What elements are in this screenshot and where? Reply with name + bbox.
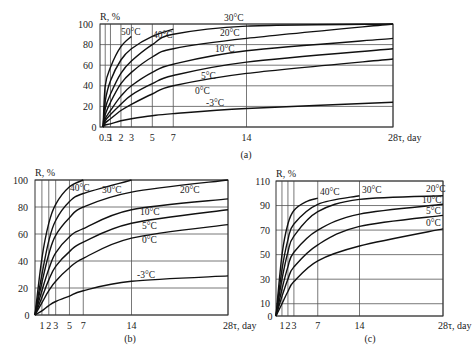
curve-label: 10°C bbox=[215, 44, 235, 54]
y-tick-label: 70 bbox=[260, 225, 270, 236]
curve-label: 0°C bbox=[142, 235, 157, 245]
x-tick-label: 5 bbox=[150, 132, 155, 143]
y-tick-label-zero: 0 bbox=[92, 122, 97, 133]
x-tick-label: 14 bbox=[242, 132, 252, 143]
curve-label: -3°C bbox=[137, 270, 155, 280]
curve-label: 5°C bbox=[142, 221, 157, 231]
curve-10c bbox=[103, 38, 393, 127]
y-tick-label: 30 bbox=[260, 274, 270, 285]
x-tick-label: 2 bbox=[285, 320, 290, 331]
curve-label: 0°C bbox=[426, 218, 441, 228]
y-tick-label: 40 bbox=[18, 256, 28, 267]
grid bbox=[276, 181, 443, 316]
y-tick-label-zero: 0 bbox=[25, 310, 30, 321]
y-tick-label-zero: 0 bbox=[268, 311, 273, 322]
panel-caption: (c) bbox=[364, 333, 375, 345]
curve-label: 30°C bbox=[102, 185, 122, 195]
curve-label: 20°C bbox=[426, 184, 446, 194]
x-tick-label: 2 bbox=[46, 320, 51, 331]
curve-label: 30°C bbox=[224, 13, 244, 23]
x-tick-label: 7 bbox=[81, 320, 86, 331]
curve-label: 10°C bbox=[140, 207, 160, 217]
grid bbox=[35, 180, 228, 315]
x-tick-label: 1 bbox=[39, 320, 44, 331]
panel-caption: (b) bbox=[124, 333, 136, 345]
x-tick-label: 28τ, day bbox=[223, 320, 256, 331]
curve-label: 30°C bbox=[362, 185, 382, 195]
y-tick-label: 10 bbox=[260, 298, 270, 309]
y-tick-label: 80 bbox=[83, 39, 93, 50]
y-tick-label: 80 bbox=[18, 202, 28, 213]
x-tick-label: 14 bbox=[127, 320, 137, 331]
y-tick-label: 20 bbox=[83, 101, 93, 112]
x-tick-label: 3 bbox=[291, 320, 296, 331]
y-tick-label: 100 bbox=[13, 175, 28, 186]
curve-label: 20°C bbox=[220, 28, 240, 38]
x-tick-label: 3 bbox=[129, 132, 134, 143]
y-axis-label: R, % bbox=[276, 168, 296, 179]
curve-label: 40°C bbox=[320, 187, 340, 197]
x-tick-label: 2 bbox=[118, 132, 123, 143]
y-tick-label: 60 bbox=[83, 60, 93, 71]
y-axis-label: R, % bbox=[35, 167, 55, 178]
x-tick-label: 5 bbox=[67, 320, 72, 331]
x-tick-label: 28τ, day bbox=[438, 320, 471, 331]
x-tick-label: 3 bbox=[53, 320, 58, 331]
grid bbox=[100, 24, 393, 127]
curve-label: 10°C bbox=[422, 195, 442, 205]
figure-three-panel-charts: 2040608010000.5123571428τ, dayR, %(a)50°… bbox=[0, 0, 473, 358]
chart-c: 1030507090110012371428τ, dayR, %(c)40°C3… bbox=[255, 168, 471, 345]
x-tick-label: 7 bbox=[315, 320, 320, 331]
x-tick-label: 14 bbox=[355, 320, 365, 331]
curve-label: -3°C bbox=[206, 98, 224, 108]
y-tick-label: 100 bbox=[78, 19, 93, 30]
curve-label: 50°C bbox=[121, 27, 141, 37]
y-tick-label: 110 bbox=[255, 176, 270, 187]
y-tick-label: 90 bbox=[260, 200, 270, 211]
chart-b: 204060801000123571428τ, dayR, %(b)40°C30… bbox=[13, 167, 256, 345]
y-tick-label: 60 bbox=[18, 229, 28, 240]
y-tick-label: 20 bbox=[18, 283, 28, 294]
chart-a: 2040608010000.5123571428τ, dayR, %(a)50°… bbox=[78, 11, 421, 161]
curve-label: 5°C bbox=[426, 206, 441, 216]
y-tick-label: 50 bbox=[260, 249, 270, 260]
curve-label: 40°C bbox=[70, 183, 90, 193]
x-tick-label: 1 bbox=[279, 320, 284, 331]
curve-label: 20°C bbox=[180, 185, 200, 195]
x-tick-label: 1 bbox=[108, 132, 113, 143]
x-tick-label: 28τ, day bbox=[388, 132, 421, 143]
panel-caption: (a) bbox=[240, 149, 251, 161]
x-tick-label: 7 bbox=[171, 132, 176, 143]
curve-label: 0°C bbox=[195, 86, 210, 96]
y-tick-label: 40 bbox=[83, 80, 93, 91]
y-axis-label: R, % bbox=[100, 11, 120, 22]
